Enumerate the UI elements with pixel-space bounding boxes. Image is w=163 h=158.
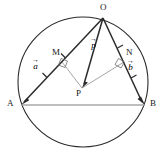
figure-canvas — [0, 0, 163, 158]
vector-label-a: → a — [32, 58, 39, 71]
point-label-p: P — [76, 89, 81, 98]
geometry-figure: O A B P M N → a → p → b — [0, 0, 163, 158]
vector-b-letter: b — [127, 63, 134, 72]
vector-a-letter: a — [32, 62, 39, 71]
segment-pm — [62, 62, 82, 88]
point-label-o: O — [100, 3, 107, 12]
point-label-m: M — [52, 48, 60, 57]
vector-label-b: → b — [127, 59, 134, 72]
circle-outline — [18, 17, 148, 147]
vector-label-p: → p — [90, 37, 97, 50]
point-label-n: N — [126, 48, 133, 57]
vector-p-letter: p — [90, 41, 97, 50]
point-label-a: A — [7, 99, 14, 108]
point-label-b: B — [150, 99, 156, 108]
